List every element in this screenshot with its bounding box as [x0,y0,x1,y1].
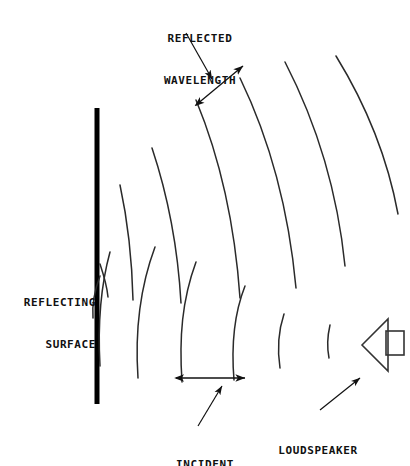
incident-wavelength-label-line1: INCIDENT [140,458,270,466]
incident-wavelength-label: INCIDENT WAVELENGTH [140,430,270,466]
incident-arc-4 [181,262,196,382]
loudspeaker-label: LOUDSPEAKER [268,416,368,466]
incident-wavelength-leader-line [198,386,222,426]
reflected-arc-6 [285,62,345,266]
reflected-arc-4 [196,100,240,298]
incident-arc-3 [233,286,245,380]
diagram-canvas: REFLECTED WAVELENGTH INCIDENT WAVELENGTH… [0,0,410,466]
incident-arc-5 [137,247,155,378]
loudspeaker-icon [362,319,404,371]
loudspeaker-cone [362,319,388,371]
reflected-arc-7 [336,56,398,214]
reflecting-surface-label: REFLECTING SURFACE [4,268,96,380]
reflecting-surface-label-line2: SURFACE [4,338,96,352]
loudspeaker-leader-line [320,378,360,410]
reflected-arc-3 [152,148,181,303]
incident-arc-2 [278,314,284,368]
reflecting-surface-label-line1: REFLECTING [4,296,96,310]
loudspeaker-label-text: LOUDSPEAKER [268,444,368,458]
incident-arc-6 [99,252,110,366]
reflected-arc-2 [120,185,133,300]
incident-arc-1 [328,325,330,358]
reflected-wavelength-label-line1: REFLECTED [130,32,270,46]
reflected-wavelength-label: REFLECTED WAVELENGTH [130,4,270,116]
reflected-wavelength-label-line2: WAVELENGTH [130,74,270,88]
